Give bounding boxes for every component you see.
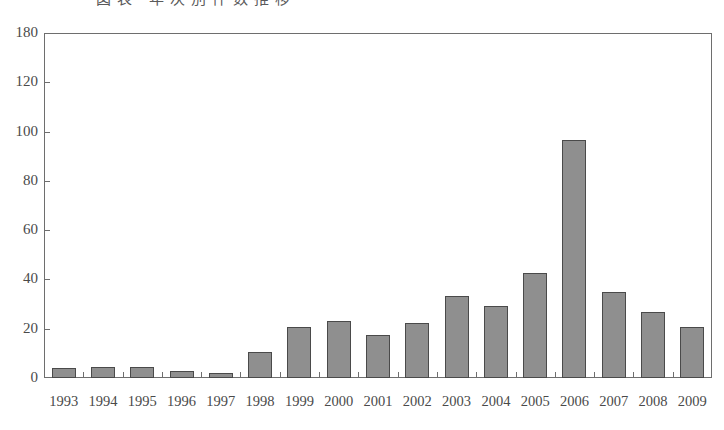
y-axis-tick-label: 40	[0, 271, 38, 286]
bar	[248, 352, 272, 378]
x-axis-tick-mark	[319, 372, 320, 378]
y-axis-tick-label: 120	[0, 74, 38, 89]
x-axis-tick-label: 1997	[201, 393, 240, 409]
y-axis-tick-label: 80	[0, 173, 38, 188]
bar-chart: 180120100806040200 199319941995199619971…	[0, 0, 724, 430]
bar	[641, 312, 665, 378]
y-axis: 180120100806040200	[0, 0, 42, 430]
x-axis-tick-label: 2009	[673, 393, 712, 409]
x-axis-tick-mark	[123, 372, 124, 378]
bar	[445, 296, 469, 378]
x-axis-tick-label: 1993	[44, 393, 83, 409]
bar	[287, 327, 311, 378]
x-axis-tick-mark	[240, 372, 241, 378]
y-axis-tick-label: 180	[0, 25, 38, 40]
bar	[209, 373, 233, 378]
bar	[327, 321, 351, 378]
x-axis-tick-label: 2005	[516, 393, 555, 409]
bar	[405, 323, 429, 378]
x-axis-tick-mark	[437, 372, 438, 378]
x-axis-tick-mark	[83, 372, 84, 378]
x-axis-tick-mark	[358, 372, 359, 378]
y-axis-tick-mark	[44, 279, 50, 280]
bar	[170, 371, 194, 378]
y-axis-tick-label: 20	[0, 321, 38, 336]
x-axis-tick-label: 1996	[162, 393, 201, 409]
x-axis-tick-mark	[398, 372, 399, 378]
x-axis-tick-label: 1999	[280, 393, 319, 409]
bar	[680, 327, 704, 378]
y-axis-tick-label: 100	[0, 124, 38, 139]
y-axis-tick-mark	[44, 181, 50, 182]
x-axis-tick-mark	[594, 372, 595, 378]
x-axis-tick-label: 1994	[83, 393, 122, 409]
y-axis-tick-label: 60	[0, 222, 38, 237]
x-axis-tick-mark	[555, 372, 556, 378]
bar	[130, 367, 154, 378]
x-axis-tick-label: 2007	[594, 393, 633, 409]
y-axis-tick-mark	[44, 132, 50, 133]
bar	[602, 292, 626, 378]
x-axis-tick-label: 1998	[240, 393, 279, 409]
bar	[366, 335, 390, 378]
x-axis-tick-mark	[201, 372, 202, 378]
bar	[523, 273, 547, 378]
bar	[91, 367, 115, 379]
y-axis-tick-mark	[44, 82, 50, 83]
x-axis-tick-label: 2000	[319, 393, 358, 409]
x-axis-tick-label: 1995	[123, 393, 162, 409]
x-axis-tick-label: 2003	[437, 393, 476, 409]
y-axis-tick-mark	[44, 329, 50, 330]
x-axis-tick-mark	[673, 372, 674, 378]
y-axis-tick-label: 0	[0, 370, 38, 385]
x-axis-tick-label: 2002	[398, 393, 437, 409]
x-axis-tick-mark	[280, 372, 281, 378]
bar	[562, 140, 586, 378]
x-axis-tick-label: 2008	[633, 393, 672, 409]
y-axis-tick-mark	[44, 230, 50, 231]
x-axis-tick-mark	[162, 372, 163, 378]
x-axis-tick-label: 2006	[555, 393, 594, 409]
bar	[484, 306, 508, 378]
x-axis-tick-label: 2001	[358, 393, 397, 409]
x-axis-tick-mark	[476, 372, 477, 378]
x-axis-tick-mark	[633, 372, 634, 378]
bar	[52, 368, 76, 378]
x-axis-tick-label: 2004	[476, 393, 515, 409]
x-axis-tick-mark	[516, 372, 517, 378]
